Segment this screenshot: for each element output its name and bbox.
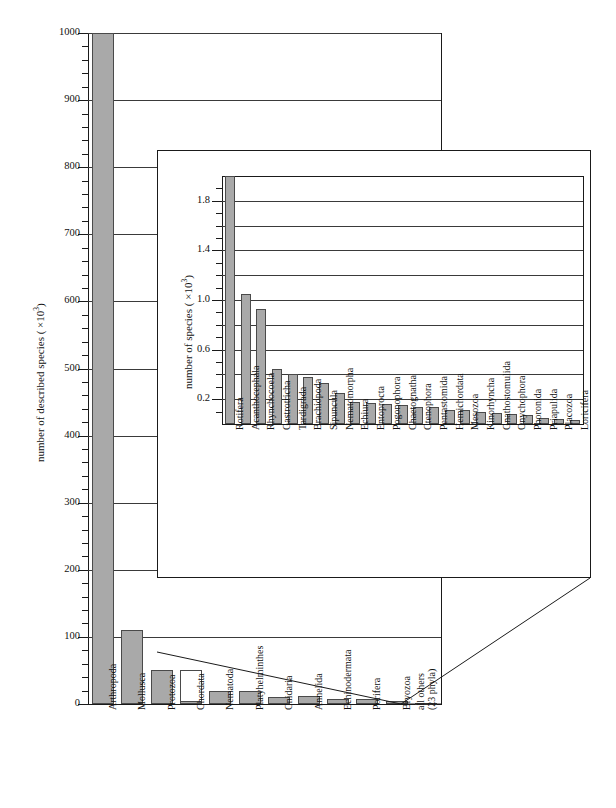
figure-root: 01002003004005006007008009001000number o…: [0, 0, 616, 808]
inset-connector-lines: [0, 0, 616, 808]
